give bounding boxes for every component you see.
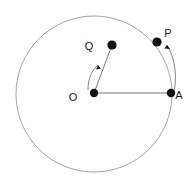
point-a	[167, 89, 175, 97]
label-p: P	[164, 27, 171, 39]
label-a: A	[175, 89, 183, 101]
label-o: O	[69, 91, 78, 103]
point-o	[90, 89, 98, 97]
point-q-on-radius	[107, 40, 116, 49]
geometry-diagram-figure: O A P Q	[0, 0, 191, 183]
label-q: Q	[85, 40, 94, 52]
point-p-on-circle	[152, 37, 161, 46]
arrow-head-icon-p	[165, 45, 171, 49]
diagram-canvas: O A P Q	[0, 0, 191, 183]
